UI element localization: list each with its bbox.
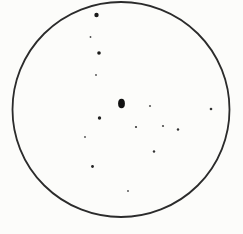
star-dot	[153, 150, 155, 152]
star-dot	[127, 190, 129, 192]
field-of-view-diagram	[0, 0, 243, 234]
star-dot	[149, 105, 151, 107]
field-circle	[13, 2, 230, 217]
star-dot	[97, 51, 101, 55]
star-dots-group	[84, 13, 212, 192]
star-dot	[95, 74, 97, 76]
star-dot	[94, 13, 98, 17]
star-dot	[162, 125, 164, 127]
star-dot	[98, 116, 101, 119]
field-of-view-sketch	[0, 0, 243, 234]
star-dot	[177, 128, 179, 130]
star-dot	[84, 136, 86, 138]
star-dot	[90, 36, 92, 38]
star-dot	[91, 165, 94, 168]
central-blob-dot	[118, 99, 125, 108]
star-dot	[210, 108, 213, 111]
star-dot	[135, 126, 137, 128]
